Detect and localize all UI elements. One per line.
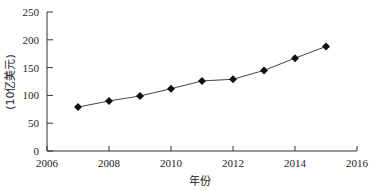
x-tick-label: 2012 <box>222 157 244 169</box>
diamond-marker-icon <box>198 77 206 85</box>
x-tick-label: 2010 <box>160 157 183 169</box>
data-series <box>74 42 330 111</box>
y-axis-title: (10亿美元) <box>4 54 17 110</box>
diamond-marker-icon <box>136 92 144 100</box>
y-tick-label: 50 <box>28 117 40 129</box>
y-tick-label: 0 <box>34 145 40 157</box>
diamond-marker-icon <box>105 97 113 105</box>
y-tick-label: 100 <box>23 89 40 101</box>
series-line <box>78 46 326 107</box>
x-tick-label: 2008 <box>98 157 121 169</box>
x-axis-ticks: 200620082010201220142016 <box>36 146 369 169</box>
y-axis-ticks: 050100150200250 <box>23 6 54 157</box>
y-tick-label: 200 <box>23 34 40 46</box>
diamond-marker-icon <box>291 54 299 62</box>
y-tick-label: 250 <box>23 6 40 18</box>
diamond-marker-icon <box>74 103 82 111</box>
x-tick-label: 2016 <box>346 157 369 169</box>
diamond-marker-icon <box>322 42 330 50</box>
x-tick-label: 2014 <box>284 157 307 169</box>
diamond-marker-icon <box>229 75 237 83</box>
y-tick-label: 150 <box>23 62 40 74</box>
diamond-marker-icon <box>260 66 268 74</box>
diamond-marker-icon <box>167 85 175 93</box>
x-axis-title: 年份 <box>189 174 211 188</box>
line-chart: 050100150200250 200620082010201220142016… <box>0 0 372 191</box>
x-tick-label: 2006 <box>36 157 59 169</box>
